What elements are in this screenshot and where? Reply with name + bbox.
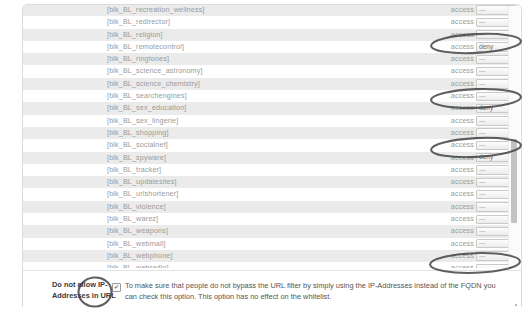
access-label: access [451,139,474,151]
access-select-value: — [479,167,485,174]
chevron-down-icon [509,267,513,268]
ip-address-option-row: Do not allow IP-Addresses in URL ✔ To ma… [23,271,521,310]
category-label: [blk_BL_warez] [107,213,158,225]
access-label: access [451,238,474,250]
category-row: [blk_BL_webmail]access— [23,238,520,250]
access-select-value: — [479,118,485,125]
category-row: [blk_BL_webradio]access— [23,262,520,268]
access-label: access [451,225,474,237]
category-list-viewport[interactable]: [blk_BL_recreation_wellness]access—[blk_… [23,5,520,268]
category-row: [blk_BL_religion]access— [23,29,520,41]
category-row: [blk_BL_weapons]access— [23,225,520,237]
category-row: [blk_BL_updatesites]access— [23,176,520,188]
category-label: [blk_BL_ringtones] [107,53,169,65]
row-access-control: access— [451,5,516,16]
access-label: access [451,65,474,77]
category-row: [blk_BL_tracker]access— [23,164,520,176]
category-label: [blk_BL_remotecontrol] [107,41,184,53]
category-label: [blk_BL_urlshortener] [107,188,178,200]
access-select-value: — [479,179,485,186]
access-label: access [451,90,474,102]
category-row: [blk_BL_shopping]access— [23,127,520,139]
access-label: access [451,213,474,225]
vertical-scrollbar[interactable] [508,6,520,267]
category-row: [blk_BL_ringtones]access— [23,53,520,65]
category-row: [blk_BL_sex_education]accessdeny [23,102,520,114]
category-label: [blk_BL_science_chemistry] [107,78,200,90]
ip-option-description: To make sure that people do not bypass t… [125,280,500,302]
category-row: [blk_BL_violence]access— [23,201,520,213]
category-row: [blk_BL_redirector]access— [23,16,520,28]
category-label: [blk_BL_weapons] [107,225,168,237]
category-label: [blk_BL_shopping] [107,127,169,139]
access-select-value: — [479,56,485,63]
row-access-control: access— [451,127,516,139]
access-label: access [451,152,474,164]
access-select-value: — [479,93,485,100]
access-select-value: — [479,253,485,260]
row-access-control: access— [451,115,516,127]
category-label: [blk_BL_redirector] [107,16,170,28]
row-access-control: accessdeny [451,152,516,164]
row-access-control: access— [451,201,516,213]
row-access-control: access— [451,53,516,65]
access-label: access [451,115,474,127]
access-select-value: deny [479,44,493,51]
access-label: access [451,250,474,262]
category-row: [blk_BL_recreation_wellness]access— [23,5,520,16]
access-label: access [451,262,474,268]
category-label: [blk_BL_violence] [107,201,166,213]
access-label: access [451,41,474,53]
row-access-control: access— [451,225,516,237]
access-label: access [451,127,474,139]
category-label: [blk_BL_socialnet] [107,139,168,151]
access-select-value: — [479,31,485,38]
row-access-control: accessdeny [451,102,516,114]
settings-card: [blk_BL_recreation_wellness]access—[blk_… [22,4,522,310]
row-access-control: access— [451,238,516,250]
row-access-control: access— [451,78,516,90]
category-row-list: [blk_BL_recreation_wellness]access—[blk_… [23,5,520,268]
category-label: [blk_BL_webphone] [107,250,173,262]
category-row: [blk_BL_searchengines]access— [23,90,520,102]
access-select-value: — [479,191,485,198]
access-select-value: — [479,240,485,247]
access-label: access [451,201,474,213]
access-label: access [451,102,474,114]
access-label: access [451,16,474,28]
row-access-control: access— [451,164,516,176]
access-label: access [451,78,474,90]
screenshot-root: [blk_BL_recreation_wellness]access—[blk_… [0,0,531,319]
row-access-control: access— [451,16,516,28]
category-label: [blk_BL_religion] [107,29,163,41]
category-row: [blk_BL_remotecontrol]accessdeny [23,41,520,53]
category-label: [blk_BL_science_astronomy] [107,65,203,77]
access-select-value: — [479,228,485,235]
row-access-control: access— [451,262,516,268]
row-access-control: access— [451,176,516,188]
row-access-control: access— [451,188,516,200]
category-row: [blk_BL_spyware]accessdeny [23,152,520,164]
access-label: access [451,5,474,16]
row-access-control: access— [451,29,516,41]
category-row: [blk_BL_socialnet]access— [23,139,520,151]
access-select-value: — [479,130,485,137]
category-row: [blk_BL_science_astronomy]access— [23,65,520,77]
ip-option-checkbox[interactable]: ✔ [112,283,121,292]
row-access-control: access— [451,250,516,262]
access-select-value: deny [479,154,493,161]
access-label: access [451,53,474,65]
access-label: access [451,164,474,176]
scrollbar-thumb[interactable] [511,139,517,223]
resize-handle-dot[interactable] [515,304,517,306]
category-row: [blk_BL_warez]access— [23,213,520,225]
access-select-value: — [479,81,485,88]
row-access-control: accessdeny [451,41,516,53]
row-access-control: access— [451,90,516,102]
category-label: [blk_BL_searchengines] [107,90,187,102]
row-access-control: access— [451,213,516,225]
access-select-value: — [479,265,485,268]
category-label: [blk_BL_updatesites] [107,176,177,188]
access-select-value: — [479,142,485,149]
category-label: [blk_BL_sex_education] [107,102,187,114]
